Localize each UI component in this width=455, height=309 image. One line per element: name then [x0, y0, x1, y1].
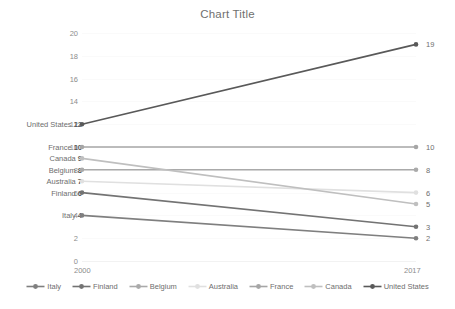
data-point-marker — [414, 202, 419, 207]
legend-item-france[interactable]: France — [249, 282, 293, 291]
legend-marker-icon — [363, 282, 382, 291]
data-point-marker — [80, 168, 85, 173]
series-finland — [80, 190, 419, 229]
data-point-marker — [414, 42, 419, 47]
legend-marker-icon — [304, 282, 323, 291]
legend-item-australia[interactable]: Australia — [188, 282, 238, 291]
data-point-marker — [80, 156, 85, 161]
legend-label: France — [270, 282, 293, 291]
series-line — [82, 44, 416, 124]
line-chart: Chart Title 02468101214161820 Italy 4Fin… — [0, 0, 455, 309]
series-line — [82, 215, 416, 238]
data-point-marker — [414, 225, 419, 230]
chart-legend: ItalyFinlandBelgiumAustraliaFranceCanada… — [0, 282, 455, 291]
data-point-marker — [80, 213, 85, 218]
x-axis-tick-label-end: 2017 — [404, 266, 421, 275]
data-point-marker — [80, 122, 85, 127]
legend-label: Italy — [47, 282, 61, 291]
data-point-marker — [80, 179, 85, 184]
legend-label: Finland — [93, 282, 118, 291]
series-canada — [80, 156, 419, 206]
series-italy — [80, 213, 419, 240]
legend-item-united-states[interactable]: United States — [363, 282, 429, 291]
legend-marker-icon — [129, 282, 148, 291]
legend-marker-icon — [26, 282, 45, 291]
data-point-marker — [80, 145, 85, 150]
series-belgium — [80, 168, 419, 173]
data-point-marker — [414, 236, 419, 241]
legend-item-canada[interactable]: Canada — [304, 282, 351, 291]
series-france — [80, 145, 419, 150]
data-point-marker — [80, 190, 85, 195]
data-point-marker — [414, 168, 419, 173]
legend-marker-icon — [188, 282, 207, 291]
series-lines — [0, 0, 455, 309]
legend-item-finland[interactable]: Finland — [72, 282, 118, 291]
legend-marker-icon — [72, 282, 91, 291]
data-point-marker — [414, 190, 419, 195]
series-line — [82, 181, 416, 192]
legend-label: Australia — [209, 282, 238, 291]
legend-label: Belgium — [150, 282, 177, 291]
x-axis-tick-label-start: 2000 — [74, 266, 91, 275]
legend-item-italy[interactable]: Italy — [26, 282, 61, 291]
legend-label: Canada — [325, 282, 351, 291]
legend-label: United States — [384, 282, 429, 291]
series-united-states — [80, 42, 419, 126]
legend-marker-icon — [249, 282, 268, 291]
legend-item-belgium[interactable]: Belgium — [129, 282, 177, 291]
data-point-marker — [414, 145, 419, 150]
